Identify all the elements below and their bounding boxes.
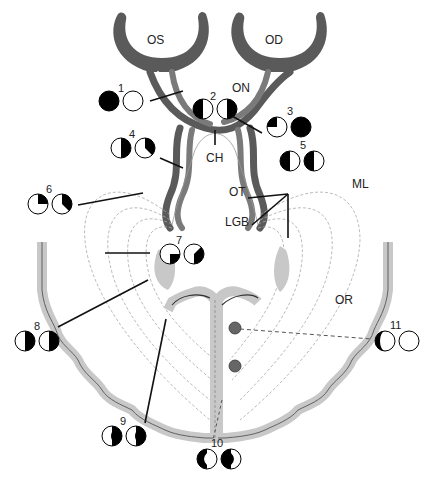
chiasm-outline [195, 134, 258, 226]
svg-text:3: 3 [287, 105, 293, 117]
svg-text:11: 11 [390, 319, 401, 331]
field-pair-3: 3 [267, 105, 311, 137]
field-pair-2: 2 [193, 90, 237, 119]
field-pair-4: 4 [111, 128, 155, 158]
label-os: OS [147, 33, 164, 47]
lesion-dot-lower [229, 360, 241, 372]
svg-text:5: 5 [300, 139, 306, 151]
cortex-right [218, 242, 388, 438]
lesion-dot-upper [229, 322, 241, 334]
svg-text:10: 10 [211, 437, 223, 449]
field-pair-5: 5 [280, 139, 324, 171]
label-ch: CH [206, 151, 223, 165]
label-or: OR [335, 293, 353, 307]
field-pair-6: 6 [28, 183, 72, 214]
label-on: ON [232, 81, 250, 95]
label-od: OD [265, 33, 283, 47]
svg-text:6: 6 [46, 183, 52, 195]
label-ot: OT [229, 185, 246, 199]
cortex-left [42, 242, 215, 438]
svg-text:7: 7 [176, 234, 182, 246]
label-lgb: LGB [225, 215, 249, 229]
label-ml: ML [352, 177, 369, 191]
svg-text:4: 4 [129, 128, 135, 140]
pointer-line-11 [240, 329, 372, 339]
svg-text:1: 1 [118, 82, 124, 94]
visual-pathway-diagram: OS OD [0, 0, 430, 482]
svg-text:2: 2 [210, 90, 216, 102]
svg-text:9: 9 [120, 415, 126, 427]
field-pair-1: 1 [99, 82, 143, 111]
svg-text:8: 8 [34, 320, 40, 332]
field-pair-7: 7 [160, 234, 204, 264]
